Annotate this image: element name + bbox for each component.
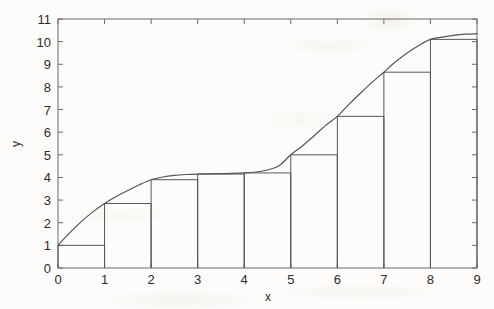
riemann-rectangles xyxy=(58,39,477,268)
riemann-rectangle xyxy=(58,245,105,268)
x-tick-label: 0 xyxy=(54,272,61,287)
x-tick-label: 2 xyxy=(147,272,154,287)
riemann-rectangle xyxy=(430,39,477,268)
riemann-rectangle xyxy=(384,72,431,268)
y-tick-label: 3 xyxy=(44,193,51,208)
x-tick-label: 1 xyxy=(101,272,108,287)
plot-box xyxy=(58,19,477,268)
y-tick-label: 7 xyxy=(44,103,51,118)
x-tick-label: 4 xyxy=(241,272,248,287)
figure-canvas: 0123456789 01234567891011 x y xyxy=(0,0,494,309)
x-tick-label: 6 xyxy=(334,272,341,287)
plot-frame xyxy=(58,19,477,268)
riemann-rectangle xyxy=(337,116,384,268)
y-tick-label: 6 xyxy=(44,125,51,140)
riemann-rectangle xyxy=(198,174,245,268)
x-tick-label: 7 xyxy=(380,272,387,287)
y-axis-title: y xyxy=(9,141,23,147)
y-tick-label: 1 xyxy=(44,238,51,253)
curve-path xyxy=(58,34,477,246)
riemann-rectangle xyxy=(151,180,198,268)
y-tick-label: 10 xyxy=(37,35,51,50)
x-tick-labels: 0123456789 xyxy=(54,272,480,287)
y-tick-labels: 01234567891011 xyxy=(37,12,51,276)
y-tick-label: 11 xyxy=(38,12,52,27)
y-tick-label: 2 xyxy=(44,216,51,231)
y-tick-label: 8 xyxy=(44,80,51,95)
x-axis-title: x xyxy=(265,290,271,304)
riemann-rectangle xyxy=(291,155,338,268)
riemann-rectangle xyxy=(244,173,291,268)
function-curve xyxy=(58,34,477,246)
axis-ticks xyxy=(58,19,477,268)
riemann-rectangle xyxy=(105,203,152,268)
y-tick-label: 0 xyxy=(44,261,51,276)
x-tick-label: 8 xyxy=(427,272,434,287)
riemann-sum-chart: 0123456789 01234567891011 x y xyxy=(0,0,494,309)
x-tick-label: 5 xyxy=(287,272,294,287)
x-tick-label: 9 xyxy=(473,272,480,287)
y-tick-label: 9 xyxy=(44,57,51,72)
y-tick-label: 4 xyxy=(44,170,51,185)
y-tick-label: 5 xyxy=(44,148,51,163)
x-tick-label: 3 xyxy=(194,272,201,287)
